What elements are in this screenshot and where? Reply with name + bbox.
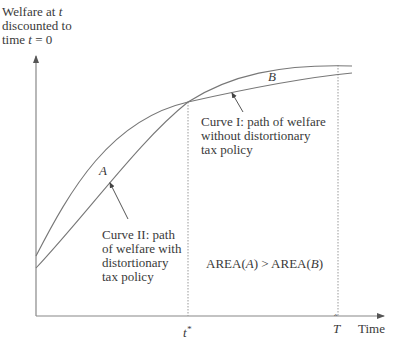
curve-2-pointer-arrow bbox=[110, 183, 128, 219]
area-pre: AREA( bbox=[206, 256, 246, 271]
curve-1-label-line3: tax policy bbox=[201, 143, 326, 157]
y-axis-label-line2: discounted to bbox=[2, 19, 72, 33]
curve-1-label: Curve I: path of welfare without distort… bbox=[201, 115, 326, 157]
curve-1-label-line1: Curve I: path of welfare bbox=[201, 115, 326, 129]
x-axis-label: Time bbox=[358, 322, 385, 336]
curve-2-label: Curve II: path of welfare with distortio… bbox=[102, 228, 181, 284]
area-b: B bbox=[311, 256, 319, 271]
y-axis-label-line3-post: = 0 bbox=[32, 32, 52, 47]
area-a: A bbox=[246, 256, 254, 271]
y-axis-label-line3-pre: time bbox=[2, 32, 28, 47]
diagram-canvas bbox=[0, 0, 403, 345]
area-post: ) bbox=[319, 256, 323, 271]
tick-tstar: t* bbox=[183, 322, 191, 340]
tick-tstar-sup: * bbox=[187, 324, 192, 334]
curve-2-path bbox=[36, 66, 352, 268]
curve-2-label-line1: Curve II: path bbox=[102, 228, 181, 242]
curve-2-label-line2: of welfare with bbox=[102, 242, 181, 256]
tick-that-wrap: ˆT bbox=[333, 321, 340, 336]
curve-1-label-line2: without distortionary bbox=[201, 129, 326, 143]
curve-1-pointer-arrow bbox=[232, 93, 243, 112]
tick-that: ˆT bbox=[333, 322, 340, 336]
curve-1-path bbox=[36, 73, 352, 256]
hat-accent: ˆ bbox=[334, 312, 337, 326]
area-mid: ) > AREA( bbox=[254, 256, 311, 271]
area-comparison-text: AREA(A) > AREA(B) bbox=[206, 257, 323, 271]
curve-2-label-line4: tax policy bbox=[102, 270, 181, 284]
y-axis-label-line1: Welfare at bbox=[2, 4, 59, 19]
region-a-label: A bbox=[99, 164, 107, 178]
region-b-label: B bbox=[268, 70, 276, 84]
curve-2-label-line3: distortionary bbox=[102, 256, 181, 270]
y-axis-label: Welfare at t discounted to time t = 0 bbox=[2, 5, 72, 47]
y-axis-label-var: t bbox=[59, 4, 63, 19]
